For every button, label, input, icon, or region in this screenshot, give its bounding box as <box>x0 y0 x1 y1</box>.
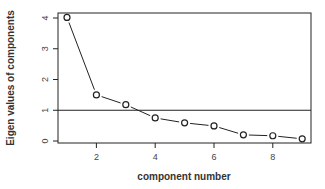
data-point-marker <box>240 132 246 138</box>
y-axis: 01234 <box>40 15 58 143</box>
y-tick-label: 3 <box>40 46 50 51</box>
data-point-marker <box>123 102 129 108</box>
y-tick-label: 0 <box>40 138 50 143</box>
series-segment <box>131 107 150 116</box>
data-point-marker <box>64 14 70 20</box>
scree-plot: 01234 2468 component number Eigen values… <box>0 0 325 189</box>
x-tick-label: 4 <box>153 152 158 162</box>
y-tick-label: 1 <box>40 108 50 113</box>
series-segment <box>102 97 121 103</box>
series-segment <box>278 136 296 138</box>
eigenvalue-series <box>64 14 305 141</box>
x-tick-label: 8 <box>270 152 275 162</box>
series-segment <box>161 119 180 122</box>
y-axis-title: Eigen values of components <box>5 10 16 146</box>
data-point-marker <box>211 123 217 129</box>
data-point-marker <box>152 115 158 121</box>
series-segment <box>190 123 208 125</box>
x-axis: 2468 <box>94 143 275 162</box>
y-tick-label: 2 <box>40 77 50 82</box>
x-tick-label: 2 <box>94 152 99 162</box>
series-segment <box>249 135 267 136</box>
series-segment <box>219 128 238 134</box>
data-point-marker <box>93 92 99 98</box>
series-segment <box>69 23 94 90</box>
x-tick-label: 6 <box>211 152 216 162</box>
x-axis-title: component number <box>137 171 230 182</box>
data-point-marker <box>182 120 188 126</box>
plot-frame <box>58 13 311 143</box>
y-tick-label: 4 <box>40 15 50 20</box>
data-point-marker <box>299 136 305 142</box>
data-point-marker <box>270 133 276 139</box>
